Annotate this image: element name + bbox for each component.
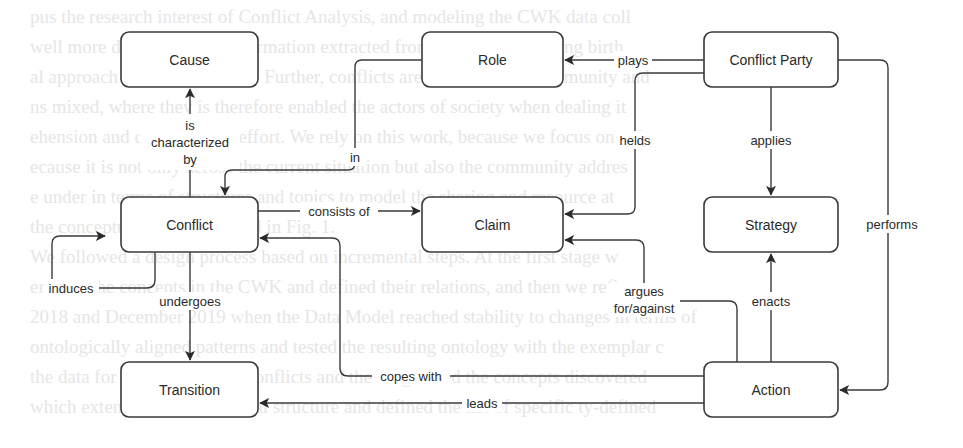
edge-consists-of: consists of	[258, 202, 420, 220]
edge-label-characterized: characterized	[151, 135, 229, 150]
edge-label-leads: leads	[466, 396, 498, 411]
node-action-label: Action	[752, 382, 791, 398]
edge-undergoes: undergoes	[155, 252, 225, 360]
edge-label-copes-with: copes with	[380, 369, 441, 384]
edge-label-for-against: for/against	[614, 301, 675, 316]
edge-label-undergoes: undergoes	[159, 294, 221, 309]
edge-label-argues: argues	[624, 284, 664, 299]
edge-label-helds: helds	[619, 133, 651, 148]
node-conflict-party-label: Conflict Party	[729, 52, 812, 68]
node-cause-label: Cause	[169, 52, 210, 68]
node-role: Role	[422, 32, 563, 87]
node-transition-label: Transition	[159, 382, 220, 398]
edge-label-in: in	[350, 150, 360, 165]
edge-label-induces: induces	[49, 281, 94, 296]
node-conflict-party: Conflict Party	[704, 32, 838, 87]
node-transition: Transition	[121, 362, 258, 417]
edge-label-applies: applies	[750, 133, 792, 148]
edge-label-performs: performs	[866, 217, 918, 232]
node-role-label: Role	[478, 52, 507, 68]
edge-label-is: is	[185, 118, 195, 133]
node-cause: Cause	[121, 32, 258, 87]
edge-plays: plays	[565, 51, 704, 69]
conceptual-model-diagram: is characterized by plays in helds appli…	[0, 0, 963, 448]
node-action: Action	[704, 362, 838, 417]
node-conflict-label: Conflict	[166, 217, 213, 233]
node-strategy-label: Strategy	[745, 217, 797, 233]
node-conflict: Conflict	[121, 197, 258, 252]
edge-helds: helds	[565, 73, 704, 214]
edge-label-plays: plays	[618, 53, 649, 68]
edge-applies: applies	[746, 87, 796, 195]
edge-enacts: enacts	[749, 254, 793, 362]
edge-argues-for-against: argues for/against	[565, 240, 737, 362]
node-claim: Claim	[422, 197, 563, 252]
edge-label-by: by	[183, 152, 197, 167]
edge-performs: performs	[838, 60, 918, 390]
edge-leads: leads	[260, 394, 704, 412]
node-strategy: Strategy	[704, 197, 838, 252]
edge-label-enacts: enacts	[752, 294, 791, 309]
node-claim-label: Claim	[475, 217, 511, 233]
edge-label-consists-of: consists of	[308, 204, 370, 219]
